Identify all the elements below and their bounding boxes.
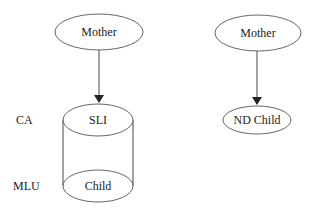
ca-label: CA [16,113,33,127]
nd-child-label: ND Child [233,113,280,127]
left-mother-label: Mother [81,25,116,39]
mlu-label: MLU [13,179,40,193]
right-mother-node: Mother [215,15,301,51]
left-mother-node: Mother [55,14,143,50]
diagram-canvas: Mother SLI Child CA MLU Mother ND Child [0,0,315,213]
right-mother-label: Mother [240,26,275,40]
child-label: Child [85,179,112,193]
sli-child-cylinder: SLI Child [63,104,133,202]
nd-child-node: ND Child [223,106,291,134]
sli-label: SLI [89,113,107,127]
